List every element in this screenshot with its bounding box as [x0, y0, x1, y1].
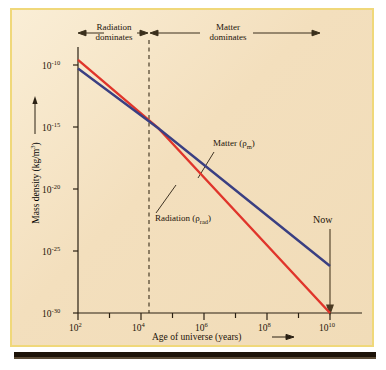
y-tick-base-2: 10: [42, 123, 52, 133]
x-axis-title: Age of universe (years): [152, 332, 241, 342]
matter-dominates-line1: Matter: [216, 22, 240, 32]
x-axis-ticks: [78, 313, 330, 320]
series-label-matter: Matter (ρm): [213, 138, 255, 150]
figure-container: Radiation dominates Matter dominates 10-…: [0, 0, 386, 370]
x-tick-label-5: 1010: [319, 321, 335, 333]
y-tick-base-4: 10: [42, 247, 52, 257]
radiation-label-sub: rad: [200, 218, 208, 225]
y-tick-exp-5: -30: [52, 307, 61, 314]
region-label-matter-dominates: Matter dominates: [200, 22, 256, 42]
x-tick-exp-2: 4: [142, 321, 145, 328]
x-tick-base-2: 10: [132, 323, 142, 333]
radiation-label-text: Radiation (: [155, 213, 195, 223]
y-axis-ticks: [73, 65, 78, 313]
x-tick-exp-5: 10: [329, 321, 336, 328]
now-label: Now: [313, 214, 332, 225]
x-tick-exp-3: 6: [205, 321, 208, 328]
x-tick-base-5: 10: [319, 323, 329, 333]
x-tick-exp-1: 2: [79, 321, 82, 328]
x-tick-exp-4: 8: [268, 321, 271, 328]
radiation-dominates-line2: dominates: [96, 32, 133, 42]
y-axis-title: Mass density (kg/m3): [31, 142, 41, 223]
y-tick-exp-2: -15: [52, 121, 61, 128]
matter-dominates-line2: dominates: [210, 32, 247, 42]
y-axis-title-arrow-icon: [31, 94, 39, 134]
y-axis-title-sup: 3: [29, 145, 36, 148]
y-tick-label-2: 10-15: [42, 121, 60, 133]
y-tick-exp-4: -25: [52, 245, 61, 252]
series-label-radiation: Radiation (ρrad): [155, 213, 211, 225]
y-axis-title-text: Mass density (kg/m: [31, 149, 41, 224]
y-tick-label-4: 10-25: [42, 245, 60, 257]
y-tick-base-5: 10: [42, 309, 52, 319]
y-tick-label-3: 10-20: [42, 183, 60, 195]
matter-label-text: Matter (: [213, 138, 242, 148]
x-tick-base-1: 10: [69, 323, 79, 333]
matter-label-close: ): [252, 138, 255, 148]
page-edge-shadow: [14, 357, 376, 359]
x-tick-base-4: 10: [258, 323, 268, 333]
now-arrow: [327, 229, 333, 314]
y-tick-base-1: 10: [42, 61, 52, 71]
y-axis-title-wrap: Mass density (kg/m3): [25, 79, 43, 239]
x-tick-label-1: 102: [69, 321, 82, 333]
radiation-label-close: ): [208, 213, 211, 223]
y-tick-label-5: 10-30: [42, 307, 60, 319]
y-axis-title-close: ): [31, 142, 41, 145]
x-axis-title-arrow: [272, 334, 294, 339]
y-tick-label-1: 10-10: [42, 59, 60, 71]
region-label-radiation-dominates: Radiation dominates: [86, 22, 142, 42]
y-tick-exp-1: -10: [52, 59, 61, 66]
radiation-dominates-line1: Radiation: [97, 22, 132, 32]
radiation-leader-line: [156, 185, 176, 213]
x-tick-label-2: 104: [132, 321, 145, 333]
y-tick-exp-3: -20: [52, 183, 61, 190]
series-line-matter: [78, 69, 330, 267]
y-tick-base-3: 10: [42, 185, 52, 195]
x-tick-label-4: 108: [258, 321, 271, 333]
